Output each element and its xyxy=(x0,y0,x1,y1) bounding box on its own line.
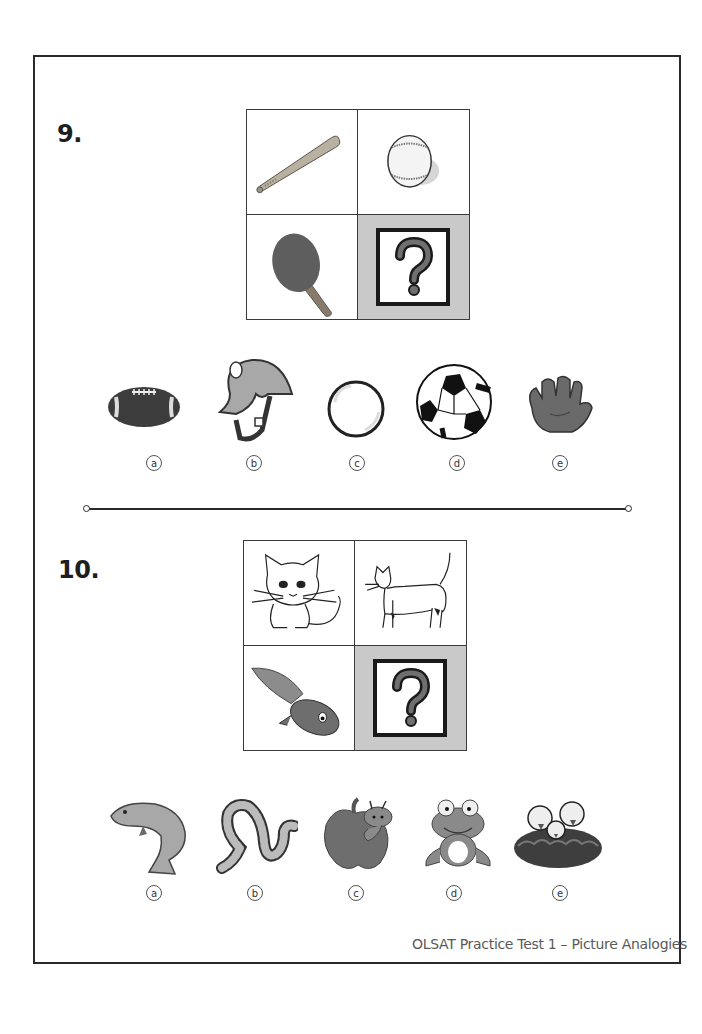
grid-cell-top-left xyxy=(247,110,358,215)
question-9-number: 9. xyxy=(57,120,82,148)
question-10-option-c[interactable] xyxy=(310,795,406,875)
tadpole-icon xyxy=(244,646,354,751)
question-9-option-b[interactable] xyxy=(206,354,302,444)
grid-cell-top-right xyxy=(355,541,466,646)
question-9-analogy-grid xyxy=(246,109,470,320)
section-divider xyxy=(86,508,630,510)
question-10-option-d[interactable] xyxy=(410,796,506,874)
baseball-icon xyxy=(358,110,469,214)
helmet-icon xyxy=(212,354,296,444)
apple-worm-icon xyxy=(316,795,400,875)
question-mark-icon xyxy=(373,659,447,737)
question-10-bubble-d[interactable]: d xyxy=(446,885,462,901)
ping-pong-ball-icon xyxy=(325,378,387,440)
grid-cell-top-right xyxy=(358,110,469,215)
bird-nest-icon xyxy=(510,790,606,876)
cat-icon xyxy=(355,541,466,645)
grid-cell-unknown xyxy=(355,646,466,751)
question-10-bubble-e[interactable]: e xyxy=(552,885,568,901)
question-10-option-b[interactable] xyxy=(208,792,304,876)
grid-cell-top-left xyxy=(244,541,355,646)
question-9-option-d[interactable] xyxy=(406,362,502,442)
question-10-bubble-a[interactable]: a xyxy=(146,885,162,901)
question-9-bubble-d[interactable]: d xyxy=(449,455,465,471)
question-9-bubble-a[interactable]: a xyxy=(146,455,162,471)
question-9-option-e[interactable] xyxy=(512,372,608,438)
fish-icon xyxy=(103,790,193,880)
question-9-option-c[interactable] xyxy=(308,378,404,440)
question-10-bubble-c[interactable]: c xyxy=(348,885,364,901)
football-icon xyxy=(104,375,184,435)
frog-icon xyxy=(416,796,500,874)
grid-cell-bottom-left xyxy=(247,215,358,320)
grid-cell-unknown xyxy=(358,215,469,320)
question-10-bubble-b[interactable]: b xyxy=(247,885,263,901)
question-9-bubble-b[interactable]: b xyxy=(246,455,262,471)
baseball-bat-icon xyxy=(247,110,357,214)
question-9-bubble-e[interactable]: e xyxy=(552,455,568,471)
grid-cell-bottom-left xyxy=(244,646,355,751)
divider-endpoint-left xyxy=(83,505,90,512)
divider-endpoint-right xyxy=(625,505,632,512)
ping-pong-paddle-icon xyxy=(247,215,357,320)
soccer-ball-icon xyxy=(414,362,494,442)
question-9-option-a[interactable] xyxy=(96,375,192,435)
question-10-number: 10. xyxy=(58,556,99,584)
page-footer: OLSAT Practice Test 1 – Picture Analogie… xyxy=(412,936,687,952)
question-10-option-a[interactable] xyxy=(100,790,196,880)
snake-icon xyxy=(214,792,298,876)
question-10-analogy-grid xyxy=(243,540,467,751)
question-10-option-e[interactable] xyxy=(510,790,606,876)
question-mark-icon xyxy=(376,228,450,306)
kitten-icon xyxy=(244,541,354,645)
question-9-bubble-c[interactable]: c xyxy=(349,455,365,471)
baseball-glove-icon xyxy=(520,372,600,438)
